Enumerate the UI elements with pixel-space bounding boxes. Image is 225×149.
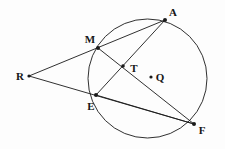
geometry-canvas — [0, 0, 225, 149]
point-dot-q — [149, 75, 152, 78]
point-label-m: M — [85, 34, 95, 45]
chord-m-f — [98, 48, 194, 124]
point-dot-m — [96, 46, 100, 50]
point-label-t: T — [130, 63, 137, 74]
point-label-r: R — [16, 71, 24, 82]
point-label-q: Q — [156, 72, 165, 83]
point-dot-r — [27, 74, 30, 77]
geometry-figure: A M R E F T Q — [0, 0, 225, 149]
point-dot-f — [192, 122, 196, 126]
point-label-f: F — [199, 125, 206, 136]
point-dot-a — [163, 18, 167, 22]
point-label-e: E — [87, 101, 94, 112]
point-dot-e — [94, 93, 98, 97]
chord-e-a — [96, 20, 165, 95]
chord-e-f — [96, 95, 194, 124]
point-label-a: A — [169, 7, 177, 18]
point-dot-t — [121, 64, 125, 68]
